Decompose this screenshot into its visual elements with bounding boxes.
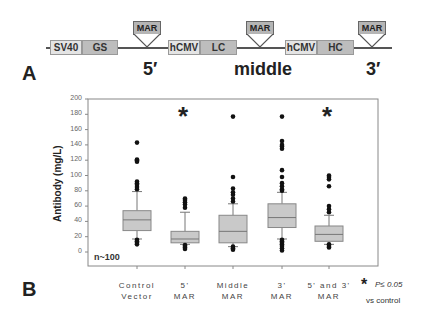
x-category-line: 5' and 3': [299, 280, 359, 291]
significance-star: *: [178, 101, 188, 132]
significance-legend-note: vs control: [366, 296, 400, 305]
significance-star: *: [322, 101, 332, 132]
significance-legend-text: P≤ 0.05: [375, 280, 403, 289]
sample-size-label: n~100: [94, 252, 120, 262]
box-plot: [0, 0, 421, 321]
x-category-line: MAR: [299, 291, 359, 302]
x-category-label: 5' and 3'MAR: [299, 280, 359, 302]
significance-legend-star: *: [361, 276, 367, 294]
panel-b-label: B: [22, 278, 36, 301]
